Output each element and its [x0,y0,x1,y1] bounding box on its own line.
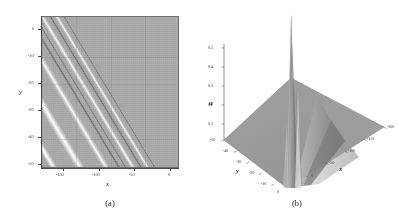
panel-a-noise-texture [42,17,178,167]
panel-a-x-axis-title: x [106,180,109,187]
panel-b-ytick-label: -20 [249,170,254,175]
panel-b-ztick-label: 0.3 [208,83,213,88]
panel-b-ytick-label: -50 [210,137,215,142]
panel-a: -150 -100 -50 0 0 -10 -20 -30 -40 -50 x … [0,0,199,224]
panel-b-ytick-label: -10 [261,181,266,186]
panel-b-ytick-label: 0 [277,189,279,194]
panel-b-ytick-label: -30 [236,159,241,164]
panel-a-ytick-label: -50 [28,161,34,166]
panel-a-ytick-label: -40 [28,134,34,139]
panel-a-xtick-label: 0 [168,172,170,177]
panel-b-xtick-label: -200 [387,124,394,129]
panel-a-ytick [38,56,41,57]
panel-a-xtick [170,168,171,171]
panel-b-ztick-label: 0.1 [208,121,213,126]
panel-b-y-axis-title: y [236,167,239,174]
panel-b-ytick-label: -40 [223,148,228,153]
panel-b-plot-area: 0.5 0.4 0.3 0.2 0.1 -50 -40 -30 -20 -10 … [199,0,399,200]
panel-b-axes-lines [199,0,399,200]
panel-a-ytick-label: -10 [28,53,34,58]
panel-a-xtick [99,168,100,171]
panel-b-xtick-label: -50 [329,160,334,165]
panel-a-y-axis-title: y [19,88,22,95]
panel-a-ytick [38,83,41,84]
panel-a-ytick [38,137,41,138]
panel-a-ytick [38,164,41,165]
panel-b-ztick-label: 0.4 [208,64,213,69]
panel-b-xtick-label: -150 [367,136,374,141]
panel-b-x-axis-title: x [339,165,342,172]
panel-b: 0.5 0.4 0.3 0.2 0.1 -50 -40 -30 -20 -10 … [199,0,399,224]
panel-a-y-axis [41,16,42,168]
panel-a-xtick [134,168,135,171]
panel-a-ytick [38,29,41,30]
panel-b-z-axis-title: u [209,99,213,106]
panel-a-ytick-label: -30 [28,107,34,112]
panel-b-xtick-label: -100 [348,148,355,153]
panel-a-xtick-label: -150 [56,172,64,177]
panel-a-ytick-label: -20 [28,80,34,85]
panel-a-ytick-label: 0 [32,26,34,31]
panel-b-ztick-label: 0.5 [208,45,213,50]
panel-a-ytick [38,110,41,111]
panel-a-xtick-label: -100 [92,172,100,177]
panel-a-caption: (a) [90,198,130,208]
panel-a-x-axis [41,168,179,169]
panel-a-xtick-label: -50 [129,172,135,177]
panel-b-xtick-label: 0 [311,173,313,178]
panel-a-plot-area [41,16,179,168]
figure-container: -150 -100 -50 0 0 -10 -20 -30 -40 -50 x … [0,0,399,224]
panel-a-xtick [63,168,64,171]
panel-b-caption: (b) [277,198,317,208]
